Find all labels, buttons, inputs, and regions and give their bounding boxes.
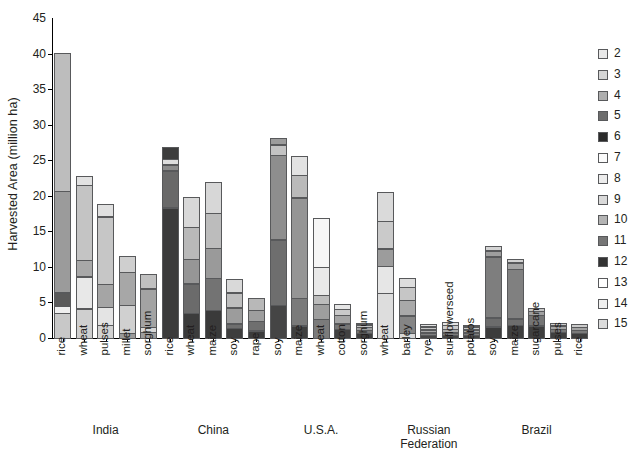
bar-segment (291, 198, 308, 299)
bar-segment (377, 266, 394, 294)
stacked-bar (183, 197, 200, 338)
bar-segment (162, 208, 179, 339)
legend-item[interactable]: 12 (592, 254, 642, 275)
bar-segment (183, 284, 200, 314)
x-tick-label: rape (249, 332, 261, 355)
legend-swatch (598, 236, 608, 246)
legend-item[interactable]: 15 (592, 316, 642, 337)
legend-label: 11 (614, 234, 626, 247)
legend-item[interactable]: 7 (592, 150, 642, 171)
legend-item[interactable]: 8 (592, 171, 642, 192)
legend-swatch (598, 215, 608, 225)
legend-item[interactable]: 4 (592, 88, 642, 109)
bar-segment (248, 310, 265, 322)
x-tick-label: cotton (336, 324, 348, 355)
bar-segment (226, 308, 243, 324)
bar-segment (76, 277, 93, 310)
legend-label: 13 (614, 276, 627, 289)
legend-swatch (598, 319, 608, 329)
bar-segment (205, 278, 222, 311)
bar-segment (377, 249, 394, 267)
bar-segment (205, 248, 222, 279)
bar-segment (183, 259, 200, 284)
bar-segment (399, 287, 416, 301)
stacked-bar (119, 256, 136, 338)
legend-item[interactable]: 2 (592, 46, 642, 67)
stacked-bar (162, 147, 179, 338)
legend-label: 7 (614, 151, 621, 164)
bar-segment (183, 197, 200, 228)
stacked-bar (76, 176, 93, 338)
legend-item[interactable]: 6 (592, 129, 642, 150)
legend-item[interactable]: 13 (592, 275, 642, 296)
x-tick-label: rice (56, 337, 68, 356)
bar-segment (291, 298, 308, 326)
stacked-bar (377, 192, 394, 338)
legend-label: 12 (614, 255, 627, 268)
x-tick-label: rye (422, 340, 434, 356)
x-tick-label: soy (228, 338, 240, 356)
legend-label: 2 (614, 47, 621, 60)
y-tick-label: 25 (20, 154, 46, 166)
country-label: U.S.A. (276, 424, 366, 438)
bar-segment (162, 147, 179, 160)
bar-segment (507, 269, 524, 319)
x-tick-label: barley (400, 324, 412, 355)
bar-segment (54, 191, 71, 293)
legend-label: 3 (614, 68, 621, 81)
legend-item[interactable]: 10 (592, 212, 642, 233)
x-tick-label: sorghum (357, 311, 369, 356)
bar-segment (76, 185, 93, 260)
legend-swatch (598, 278, 608, 288)
country-label: India (61, 424, 151, 438)
bars-container (52, 18, 570, 338)
legend-item[interactable]: 11 (592, 233, 642, 254)
x-tick-label: wheat (185, 325, 197, 356)
bar-segment (291, 175, 308, 198)
bar-segment (248, 298, 265, 311)
bar-segment (399, 300, 416, 316)
legend-swatch (598, 195, 608, 205)
bar-segment (226, 293, 243, 309)
legend-item[interactable]: 5 (592, 108, 642, 129)
stacked-bar (270, 138, 287, 338)
x-tick-label: rice (573, 337, 585, 356)
stacked-bar (313, 218, 330, 338)
y-tick-label: 35 (20, 83, 46, 95)
bar-segment (420, 335, 437, 339)
bar-segment (291, 156, 308, 176)
bar-segment (270, 145, 287, 156)
y-tick-label: 40 (20, 48, 46, 60)
stacked-bar (485, 246, 502, 338)
bar-segment (76, 260, 93, 277)
stacked-bar (420, 324, 437, 338)
x-tick-label: millet (120, 329, 132, 356)
legend-label: 9 (614, 193, 621, 206)
country-label: Brazil (492, 424, 582, 438)
bar-segment (485, 257, 502, 319)
legend-item[interactable]: 14 (592, 296, 642, 317)
stacked-bar (291, 156, 308, 338)
country-label: Russian Federation (384, 424, 474, 451)
legend-label: 8 (614, 172, 621, 185)
legend-item[interactable]: 3 (592, 67, 642, 88)
legend-label: 5 (614, 109, 621, 122)
bar-segment (313, 267, 330, 295)
y-tick-label: 10 (20, 261, 46, 273)
bar-segment (313, 218, 330, 268)
x-tick-label: wheat (77, 325, 89, 356)
bar-segment (377, 192, 394, 221)
legend-label: 10 (614, 213, 627, 226)
x-tick-label: maize (293, 325, 305, 356)
x-tick-label: sunflowerseed (443, 281, 455, 355)
chart-figure: Harvested Area (million ha) 051015202530… (0, 0, 644, 468)
bar-segment (54, 53, 71, 192)
y-tick-label: 0 (20, 332, 46, 344)
bar-segment (183, 227, 200, 260)
legend: 23456789101112131415 (592, 46, 642, 337)
x-tick-label: soy (271, 338, 283, 356)
x-tick-label: pulses (99, 322, 111, 355)
legend-item[interactable]: 9 (592, 192, 642, 213)
y-axis-title-text: Harvested Area (million ha) (6, 97, 20, 250)
stacked-bar (205, 182, 222, 338)
